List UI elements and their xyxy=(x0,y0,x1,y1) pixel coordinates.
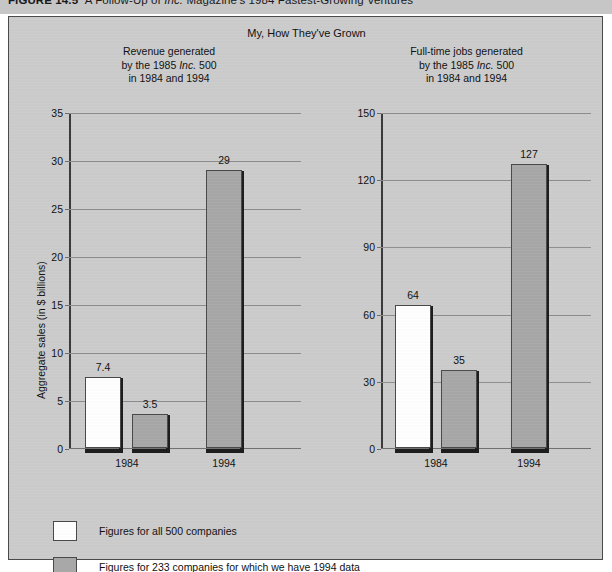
x-tick-label-revenue-1984: 1984 xyxy=(115,457,138,469)
bar-jobs-1994-233[interactable] xyxy=(511,164,547,448)
chart-title-revenue-line3: in 1984 and 1994 xyxy=(128,72,209,84)
y-tick-mark-150 xyxy=(377,113,381,114)
y-tick-label-90: 90 xyxy=(363,241,375,253)
y-tick-label-25: 25 xyxy=(51,203,63,215)
legend-swatch-all500 xyxy=(53,521,77,541)
chart-title-jobs-line1: Full-time jobs generated xyxy=(410,45,523,57)
y-tick-label-20: 20 xyxy=(51,251,63,263)
y-axis-line-jobs xyxy=(381,113,383,449)
bar-shadow-base-revenue-1994-233 xyxy=(206,449,244,453)
gridline-20 xyxy=(69,257,301,258)
bar-shadow-base-revenue-1984-all500 xyxy=(85,449,123,453)
chart-title-revenue: Revenue generated by the 1985 Inc. 500 i… xyxy=(9,45,329,86)
bar-shadow-base-jobs-1984-233 xyxy=(441,449,479,453)
y-tick-mark-15 xyxy=(65,305,69,306)
gridline-150 xyxy=(381,113,591,114)
legend-label-233: Figures for 233 companies for which we h… xyxy=(99,561,360,572)
y-tick-label-5: 5 xyxy=(57,395,63,407)
chart-title-revenue-line2-pre: by the 1985 xyxy=(121,59,179,71)
plot-area-jobs: 150 120 90 60 30 0 64 35 xyxy=(381,113,591,449)
figure-panel: My, How They've Grown Revenue generated … xyxy=(8,16,603,560)
y-tick-mark-0 xyxy=(65,449,69,450)
chart-title-jobs-line2-post: 500 xyxy=(494,59,514,71)
figure-caption: FIGURE 14.5 A Follow-Up of Inc. Magazine… xyxy=(8,0,413,6)
figure-caption-italic: Inc. xyxy=(164,0,183,6)
y-tick-label-0: 0 xyxy=(57,443,63,455)
y-tick-label-150: 150 xyxy=(357,107,375,119)
chart-title-revenue-line1: Revenue generated xyxy=(123,45,215,57)
y-tick-label-0r: 0 xyxy=(369,443,375,455)
chart-title-revenue-line2-post: 500 xyxy=(196,59,216,71)
bar-revenue-1984-233[interactable] xyxy=(132,414,168,448)
bar-value-jobs-1984-233: 35 xyxy=(453,354,465,366)
x-tick-label-revenue-1994: 1994 xyxy=(212,457,235,469)
legend-label-all500: Figures for all 500 companies xyxy=(99,525,237,537)
figure-caption-number: FIGURE 14.5 xyxy=(8,0,78,6)
legend-swatch-233 xyxy=(53,557,77,572)
figure-caption-bar: FIGURE 14.5 A Follow-Up of Inc. Magazine… xyxy=(0,0,612,14)
bar-revenue-1994-233[interactable] xyxy=(206,170,242,448)
gridline-30 xyxy=(69,161,301,162)
gridline-90 xyxy=(381,247,591,248)
gridline-120 xyxy=(381,180,591,181)
y-axis-line-revenue xyxy=(69,113,71,449)
y-tick-mark-25 xyxy=(65,209,69,210)
y-tick-label-35: 35 xyxy=(51,107,63,119)
gridline-10 xyxy=(69,353,301,354)
y-tick-mark-35 xyxy=(65,113,69,114)
bar-value-jobs-1984-all500: 64 xyxy=(407,289,419,301)
chart-title-revenue-line2-italic: Inc. xyxy=(179,59,196,71)
bar-value-revenue-1994-233: 29 xyxy=(218,154,230,166)
x-tick-label-jobs-1984: 1984 xyxy=(424,457,447,469)
bar-shadow-base-revenue-1984-233 xyxy=(132,449,170,453)
y-tick-mark-10 xyxy=(65,353,69,354)
bar-shadow-base-jobs-1994-233 xyxy=(511,449,549,453)
y-axis-title-revenue: Aggregate sales (in $ billions) xyxy=(35,261,48,399)
y-tick-label-15: 15 xyxy=(51,299,63,311)
y-tick-label-60: 60 xyxy=(363,309,375,321)
bar-jobs-1984-233[interactable] xyxy=(441,370,477,448)
plot-area-revenue: 35 30 25 20 15 10 5 0 7.4 3.5 xyxy=(69,113,301,449)
chart-title-jobs: Full-time jobs generated by the 1985 Inc… xyxy=(329,45,604,86)
bar-value-revenue-1984-all500: 7.4 xyxy=(96,361,111,373)
y-tick-label-30: 30 xyxy=(363,376,375,388)
y-tick-mark-60 xyxy=(377,315,381,316)
chart-legend: Figures for all 500 companies Figures fo… xyxy=(53,513,360,572)
y-tick-mark-120 xyxy=(377,180,381,181)
gridline-15 xyxy=(69,305,301,306)
bar-value-jobs-1994-233: 127 xyxy=(520,148,538,160)
chart-title-jobs-line2-italic: Inc. xyxy=(477,59,494,71)
gridline-35 xyxy=(69,113,301,114)
y-tick-mark-30 xyxy=(65,161,69,162)
chart-panel-jobs: Full-time jobs generated by the 1985 Inc… xyxy=(329,17,604,561)
bar-revenue-1984-all500[interactable] xyxy=(85,377,121,448)
x-tick-label-jobs-1994: 1994 xyxy=(517,457,540,469)
bar-value-revenue-1984-233: 3.5 xyxy=(143,398,158,410)
bar-shadow-base-jobs-1984-all500 xyxy=(395,449,433,453)
bar-jobs-1984-all500[interactable] xyxy=(395,305,431,448)
y-tick-mark-30 xyxy=(377,382,381,383)
y-tick-mark-5 xyxy=(65,401,69,402)
gridline-25 xyxy=(69,209,301,210)
y-tick-mark-20 xyxy=(65,257,69,258)
y-tick-label-30: 30 xyxy=(51,155,63,167)
chart-title-jobs-line3: in 1984 and 1994 xyxy=(426,72,507,84)
legend-item-233[interactable]: Figures for 233 companies for which we h… xyxy=(53,549,360,572)
chart-panel-revenue: Revenue generated by the 1985 Inc. 500 i… xyxy=(9,17,329,561)
chart-title-jobs-line2-pre: by the 1985 xyxy=(419,59,477,71)
legend-item-all500[interactable]: Figures for all 500 companies xyxy=(53,513,360,549)
y-tick-label-120: 120 xyxy=(357,174,375,186)
y-tick-mark-90 xyxy=(377,247,381,248)
y-tick-label-10: 10 xyxy=(51,347,63,359)
y-tick-mark-0r xyxy=(377,449,381,450)
